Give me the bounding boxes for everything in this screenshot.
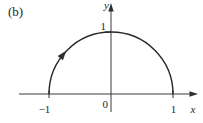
tick-label-y-pos1: 1 (101, 20, 107, 32)
x-axis-arrow-icon (190, 91, 199, 97)
panel-label: (b) (8, 4, 23, 19)
x-axis-label: x (190, 103, 196, 115)
origin-label: 0 (103, 98, 109, 110)
tick-label-x-neg1: −1 (39, 103, 51, 115)
semicircle-figure: (b) x y −1 1 1 0 (0, 0, 203, 123)
y-axis: y (103, 0, 114, 112)
y-axis-arrow-icon (108, 3, 113, 12)
y-axis-label: y (103, 0, 109, 11)
tick-label-x-pos1: 1 (171, 103, 177, 115)
diagram-canvas: (b) x y −1 1 1 0 (0, 0, 203, 123)
